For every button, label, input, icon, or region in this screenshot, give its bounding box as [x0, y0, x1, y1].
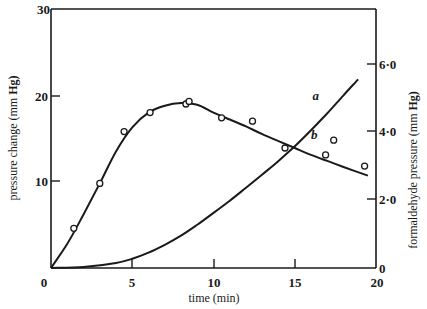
x-tick-5: 5: [129, 275, 136, 290]
data-point-marker: [219, 115, 225, 121]
y-left-ticks: [51, 96, 60, 181]
curve-b-label: b: [311, 127, 318, 142]
y-left-title-text: pressure change (mm: [6, 95, 20, 201]
data-point-marker: [186, 98, 192, 104]
x-tick-10: 10: [208, 275, 221, 290]
x-tick-labels: 0 5 10 15 20: [41, 275, 384, 290]
y-right-tick-0: 0: [379, 261, 386, 276]
y-right-axis-title: formaldehyde pressure (mm Hg): [406, 91, 420, 249]
y-right-tick-6: 6·0: [379, 57, 396, 72]
data-point-marker: [250, 118, 256, 124]
y-right-tick-4: 4·0: [379, 124, 396, 139]
y-left-tick-labels: 10 20 30: [35, 2, 50, 189]
x-tick-15: 15: [289, 275, 303, 290]
x-axis-ticks: [132, 259, 295, 268]
data-point-marker: [71, 225, 77, 231]
y-right-tick-2: 2·0: [379, 192, 396, 207]
data-point-marker: [362, 163, 368, 169]
x-axis-title: time (min): [189, 291, 240, 305]
data-point-marker: [323, 152, 329, 158]
chart: 0 5 10 15 20 10 20 30 0 2·0 4·0 6·0 time…: [0, 0, 427, 309]
plot-frame: [51, 9, 376, 268]
curve-a-label: a: [313, 88, 320, 103]
y-left-axis-title: pressure change (mm Hg): [6, 76, 20, 201]
y-right-title-unit: Hg): [406, 91, 420, 110]
y-left-tick-10: 10: [35, 174, 48, 189]
data-point-marker: [282, 145, 288, 151]
data-point-marker: [331, 137, 337, 143]
y-right-tick-labels: 0 2·0 4·0 6·0: [379, 57, 396, 276]
y-right-ticks: [367, 64, 376, 199]
y-left-tick-20: 20: [35, 89, 48, 104]
y-right-title-text: formaldehyde pressure (mm: [406, 111, 420, 249]
x-tick-20: 20: [371, 275, 384, 290]
data-point-marker: [121, 129, 127, 135]
y-left-tick-30: 30: [37, 2, 50, 17]
data-point-marker: [147, 110, 153, 116]
y-left-title-unit: Hg): [6, 76, 20, 95]
data-point-marker: [97, 180, 103, 186]
x-tick-0: 0: [41, 275, 48, 290]
